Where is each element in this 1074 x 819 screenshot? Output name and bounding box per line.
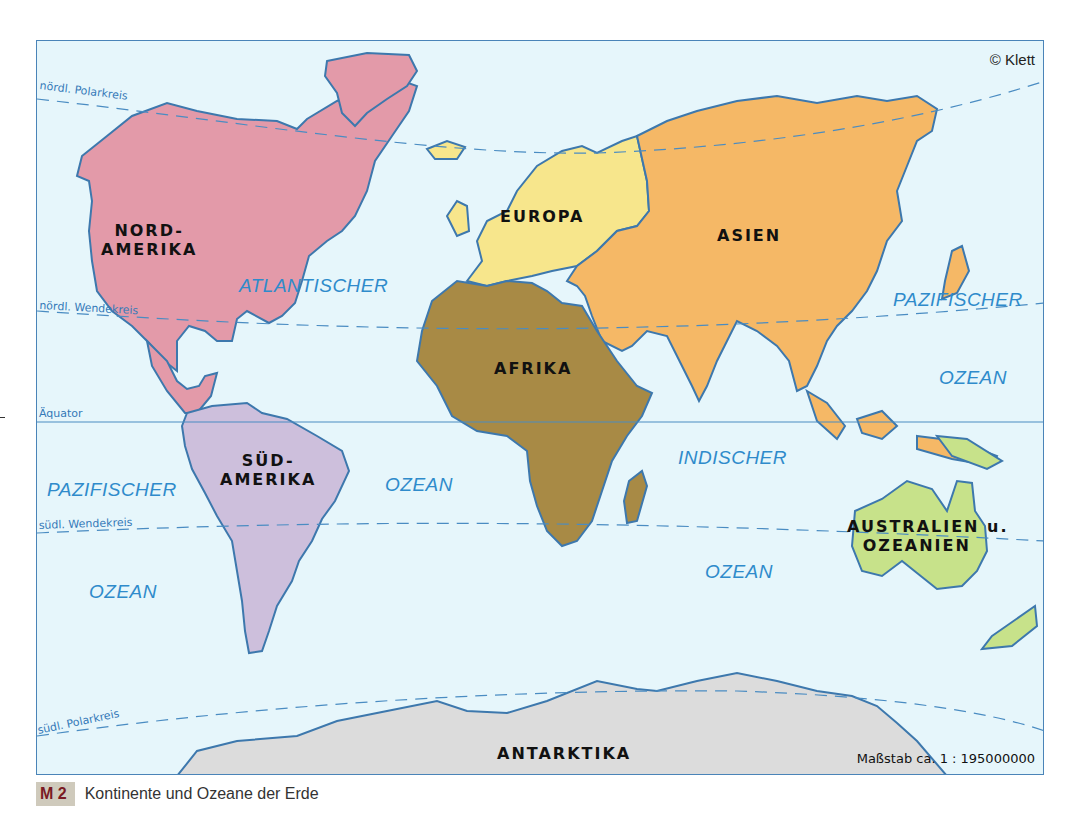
pacific-ocean-east-label-1: PAZIFISCHER xyxy=(893,289,1023,311)
antarctica-label: ANTARKTIKA xyxy=(497,744,631,763)
australia-label-line2: OZEANIEN xyxy=(847,536,1009,555)
central-america-shape xyxy=(147,341,217,413)
equator-label: Äquator xyxy=(39,407,83,420)
world-map: © Klett nördl. Polarkreis nördl. Wendekr… xyxy=(36,40,1044,775)
australia-label-line1: AUSTRALIEN u. xyxy=(847,517,1009,536)
north-america-label-line2: AMERIKA xyxy=(101,240,197,259)
north-america-label: NORD- AMERIKA xyxy=(101,221,197,259)
asia-label: ASIEN xyxy=(717,226,781,245)
iceland-shape xyxy=(427,141,465,159)
pacific-ocean-west-label-1: PAZIFISCHER xyxy=(47,479,177,501)
africa-label: AFRIKA xyxy=(494,359,572,378)
copyright-label: © Klett xyxy=(990,51,1035,68)
figure-caption: M 2 Kontinente und Ozeane der Erde xyxy=(36,782,319,806)
map-graphic xyxy=(37,41,1044,775)
south-america-label-line1: SÜD- xyxy=(220,451,316,470)
figure-tag: M 2 xyxy=(36,782,75,806)
pacific-ocean-east-label-2: OZEAN xyxy=(939,367,1007,389)
figure-title: Kontinente und Ozeane der Erde xyxy=(85,785,319,803)
madagascar-shape xyxy=(624,471,647,523)
south-america-label-line2: AMERIKA xyxy=(220,470,316,489)
indian-ocean-label-2: OZEAN xyxy=(705,561,773,583)
europe-label: EUROPA xyxy=(500,207,584,226)
indian-ocean-label-1: INDISCHER xyxy=(678,447,787,469)
atlantic-ocean-label-2: OZEAN xyxy=(385,474,453,496)
north-america-label-line1: NORD- xyxy=(101,221,197,240)
australia-oceania-label: AUSTRALIEN u. OZEANIEN xyxy=(847,517,1009,555)
new-zealand-shape xyxy=(982,606,1037,649)
south-america-label: SÜD- AMERIKA xyxy=(220,451,316,489)
atlantic-ocean-label-1: ATLANTISCHER xyxy=(239,275,388,297)
britain-shape xyxy=(447,201,469,236)
margin-tick xyxy=(0,417,5,418)
pacific-ocean-west-label-2: OZEAN xyxy=(89,581,157,603)
scale-label: Maßstab ca. 1 : 195000000 xyxy=(857,751,1035,766)
south-america-shape xyxy=(182,403,349,653)
